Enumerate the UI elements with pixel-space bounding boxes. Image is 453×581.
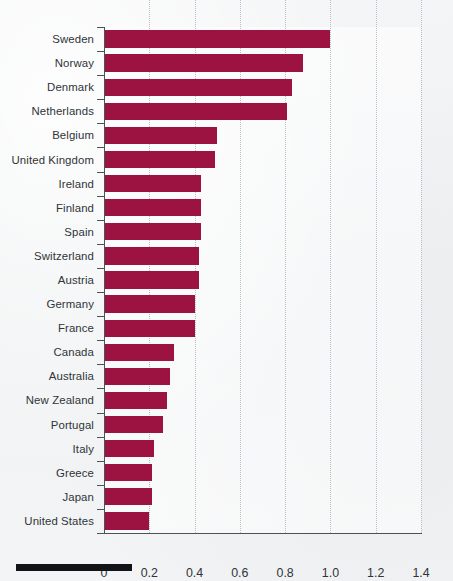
y-axis-tick — [97, 51, 104, 52]
y-axis-tick — [97, 413, 104, 414]
bar[interactable] — [104, 103, 287, 120]
bar[interactable] — [104, 512, 149, 529]
category-label: Greece — [56, 467, 94, 479]
category-label: Denmark — [47, 81, 94, 93]
category-label: Sweden — [52, 33, 94, 45]
y-axis-tick — [97, 437, 104, 438]
bar-row[interactable]: Netherlands — [104, 99, 421, 123]
bar-row[interactable]: Spain — [104, 220, 421, 244]
y-axis-tick — [97, 533, 104, 534]
plot-area: SwedenNorwayDenmarkNetherlandsBelgiumUni… — [104, 27, 421, 533]
bar[interactable] — [104, 464, 152, 481]
x-axis-line — [104, 533, 422, 534]
bar-row[interactable]: Austria — [104, 268, 421, 292]
bar[interactable] — [104, 175, 201, 192]
bar-row[interactable]: United Kingdom — [104, 147, 421, 171]
bar[interactable] — [104, 199, 201, 216]
category-label: Australia — [49, 370, 94, 382]
x-tick-label: 1.4 — [412, 566, 429, 580]
y-axis-tick — [97, 123, 104, 124]
x-tick-label: 0.6 — [231, 566, 248, 580]
y-axis-tick — [97, 364, 104, 365]
bar-row[interactable]: France — [104, 316, 421, 340]
x-tick-label: 1.0 — [322, 566, 339, 580]
y-axis-tick — [97, 220, 104, 221]
category-label: Spain — [64, 226, 94, 238]
bar[interactable] — [104, 223, 201, 240]
bar[interactable] — [104, 416, 163, 433]
y-axis-tick — [97, 244, 104, 245]
y-axis-tick — [97, 509, 104, 510]
bar-row[interactable]: Australia — [104, 364, 421, 388]
x-tick-label: 0.8 — [277, 566, 294, 580]
bar-row[interactable]: Belgium — [104, 123, 421, 147]
category-label: Italy — [73, 443, 94, 455]
bar-row[interactable]: United States — [104, 509, 421, 533]
bar-row[interactable]: Switzerland — [104, 244, 421, 268]
bottom-rule — [16, 564, 132, 571]
category-label: New Zealand — [26, 394, 94, 406]
category-label: Belgium — [52, 129, 94, 141]
bar[interactable] — [104, 247, 199, 264]
bar-row[interactable]: Canada — [104, 340, 421, 364]
y-axis-tick — [97, 196, 104, 197]
bar[interactable] — [104, 488, 152, 505]
y-axis-tick — [97, 172, 104, 173]
category-label: Ireland — [58, 178, 94, 190]
y-axis-tick — [97, 99, 104, 100]
bar[interactable] — [104, 368, 170, 385]
category-label: Netherlands — [31, 105, 94, 117]
bar[interactable] — [104, 127, 217, 144]
bar-row[interactable]: Sweden — [104, 27, 421, 51]
bar[interactable] — [104, 271, 199, 288]
y-axis-tick — [97, 340, 104, 341]
y-axis-tick — [97, 268, 104, 269]
bar-row[interactable]: Portugal — [104, 413, 421, 437]
bar[interactable] — [104, 392, 167, 409]
bar-row[interactable]: Greece — [104, 461, 421, 485]
category-label: Portugal — [51, 419, 94, 431]
bar[interactable] — [104, 30, 330, 47]
bar-row[interactable]: Norway — [104, 51, 421, 75]
category-label: France — [58, 322, 94, 334]
chart-page: SwedenNorwayDenmarkNetherlandsBelgiumUni… — [0, 0, 453, 581]
bar[interactable] — [104, 79, 292, 96]
bar-row[interactable]: Ireland — [104, 172, 421, 196]
bar[interactable] — [104, 320, 195, 337]
bar-row[interactable]: Japan — [104, 485, 421, 509]
category-label: Switzerland — [34, 250, 94, 262]
bar-row[interactable]: New Zealand — [104, 388, 421, 412]
category-label: United States — [24, 515, 94, 527]
bar[interactable] — [104, 151, 215, 168]
bar[interactable] — [104, 440, 154, 457]
y-axis-tick — [97, 147, 104, 148]
category-label: Austria — [58, 274, 94, 286]
category-label: Japan — [62, 491, 94, 503]
x-tick-label: 0.2 — [141, 566, 158, 580]
x-tick-label: 0.4 — [186, 566, 203, 580]
bar-row[interactable]: Germany — [104, 292, 421, 316]
category-label: United Kingdom — [12, 154, 94, 166]
y-axis-tick — [97, 485, 104, 486]
y-axis-spine — [104, 27, 105, 533]
gridline-1.4 — [421, 0, 422, 533]
y-axis-tick — [97, 27, 104, 28]
bar-row[interactable]: Denmark — [104, 75, 421, 99]
category-label: Norway — [55, 57, 94, 69]
category-label: Germany — [46, 298, 94, 310]
bar[interactable] — [104, 344, 174, 361]
bar-row[interactable]: Finland — [104, 196, 421, 220]
bar[interactable] — [104, 54, 303, 71]
y-axis-tick — [97, 75, 104, 76]
y-axis-tick — [97, 388, 104, 389]
bar[interactable] — [104, 295, 195, 312]
category-label: Finland — [56, 202, 94, 214]
y-axis-tick — [97, 292, 104, 293]
bar-row[interactable]: Italy — [104, 437, 421, 461]
y-axis-tick — [97, 461, 104, 462]
y-axis-tick — [97, 316, 104, 317]
category-label: Canada — [53, 346, 94, 358]
x-tick-label: 1.2 — [367, 566, 384, 580]
